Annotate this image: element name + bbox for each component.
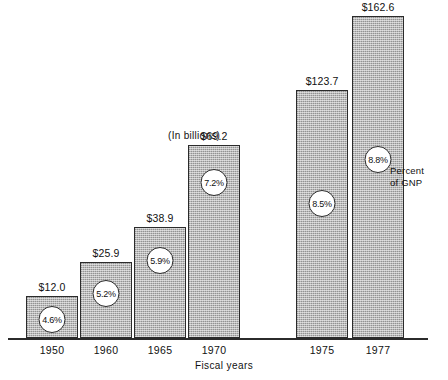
percent-of-gnp-callout: Percent of GNP (390, 165, 424, 189)
bar-1965[interactable] (134, 227, 186, 338)
x-tick-label-1960: 1960 (94, 344, 119, 356)
x-axis-title: Fiscal years (195, 360, 253, 371)
bar-value-label-1960: $25.9 (93, 247, 120, 259)
bar-value-label-1977: $162.6 (362, 1, 395, 13)
x-axis-line (8, 338, 428, 340)
bar-group-1975[interactable]: $123.7 8.5% (296, 90, 348, 338)
percent-of-gnp-line-2: of GNP (390, 177, 424, 189)
bar-group-1965[interactable]: $38.9 5.9% (134, 227, 186, 338)
percent-circle-1960: 5.2% (93, 280, 120, 307)
percent-circle-1975: 8.5% (309, 190, 336, 217)
x-tick-label-1950: 1950 (40, 344, 65, 356)
bar-group-1970[interactable]: $69.2 7.2% (188, 145, 240, 338)
bar-value-label-1950: $12.0 (39, 281, 66, 293)
x-tick-label-1975: 1975 (310, 344, 335, 356)
x-tick-label-1977: 1977 (366, 344, 391, 356)
bar-group-1950[interactable]: $12.0 4.6% (26, 296, 78, 338)
x-tick-label-1970: 1970 (202, 344, 227, 356)
plot-area: $12.0 4.6% $25.9 5.2% $38.9 5.9% $69.2 7… (0, 0, 448, 340)
percent-circle-1965: 5.9% (147, 247, 174, 274)
bar-value-label-1975: $123.7 (306, 75, 339, 87)
percent-of-gnp-line-1: Percent (390, 165, 424, 177)
bar-value-label-1965: $38.9 (147, 212, 174, 224)
percent-circle-1977: 8.8% (365, 146, 392, 173)
percent-circle-1950: 4.6% (39, 306, 66, 333)
x-tick-label-1965: 1965 (148, 344, 173, 356)
bar-group-1960[interactable]: $25.9 5.2% (80, 262, 132, 338)
bar-chart: $12.0 4.6% $25.9 5.2% $38.9 5.9% $69.2 7… (0, 0, 448, 380)
units-note: (In billions) (168, 130, 220, 141)
percent-circle-1970: 7.2% (201, 169, 228, 196)
